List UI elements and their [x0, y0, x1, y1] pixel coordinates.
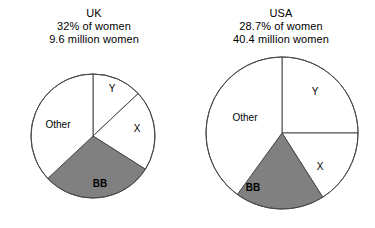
pie-label-other-usa: Other	[232, 112, 258, 123]
pie-label-other-uk: Other	[45, 119, 71, 130]
pie-panel-uk: UK 32% of women 9.6 million women Y X BB…	[0, 0, 188, 228]
pie-area-uk: Y X BB Other	[0, 0, 188, 228]
pie-slice-y-usa[interactable]	[282, 57, 358, 133]
pie-svg-uk: Y X BB Other	[0, 0, 188, 228]
pie-label-bb-usa: BB	[246, 182, 260, 193]
two-pie-chart-figure: UK 32% of women 9.6 million women Y X BB…	[0, 0, 375, 228]
pie-area-usa: Y X BB Other	[187, 0, 375, 228]
pie-svg-usa: Y X BB Other	[187, 0, 375, 228]
pie-label-y-usa: Y	[312, 86, 319, 97]
pie-slices-usa	[206, 57, 358, 209]
pie-label-bb-uk: BB	[93, 178, 107, 189]
pie-label-x-usa: X	[317, 161, 324, 172]
pie-panel-usa: USA 28.7% of women 40.4 million women Y …	[187, 0, 375, 228]
pie-label-y-uk: Y	[109, 83, 116, 94]
pie-label-x-uk: X	[134, 123, 141, 134]
